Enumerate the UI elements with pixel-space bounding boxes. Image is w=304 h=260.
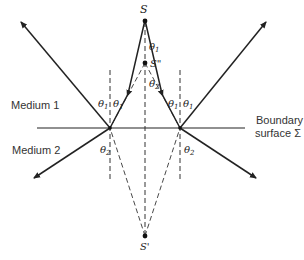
reflected-ray-left [21,22,110,128]
label-medium-1: Medium 1 [11,99,59,111]
intersection-left [108,126,112,130]
intersection-right [178,126,182,130]
label-theta2-left: θ2 [100,144,111,157]
label-theta1-center: θ1 [149,41,160,54]
image-point-s-double-prime [143,61,148,66]
construction-s1-right [145,128,180,236]
source-point-s [143,19,148,24]
label-surface-sigma: surface Σ [255,127,301,139]
incident-ray-right [145,20,180,128]
label-theta1-left-b: θ1 [113,98,124,111]
optics-diagram: S S" S' θ1 θ2 θ1 θ1 θ2 θ1 θ1 θ2 Medium 1… [0,0,304,260]
label-s-prime: S' [140,241,150,252]
incident-ray-left [110,20,145,128]
label-theta1-left-a: θ1 [98,98,109,111]
construction-s1-left [110,128,145,236]
label-s: S [140,3,148,16]
label-boundary: Boundary [256,114,304,126]
label-s-double-prime: S" [150,58,161,69]
reflected-ray-right [180,22,266,128]
label-theta2-right: θ2 [184,144,195,157]
label-medium-2: Medium 2 [12,144,60,156]
image-point-s-prime [143,234,148,239]
label-theta1-right-b: θ1 [183,98,194,111]
